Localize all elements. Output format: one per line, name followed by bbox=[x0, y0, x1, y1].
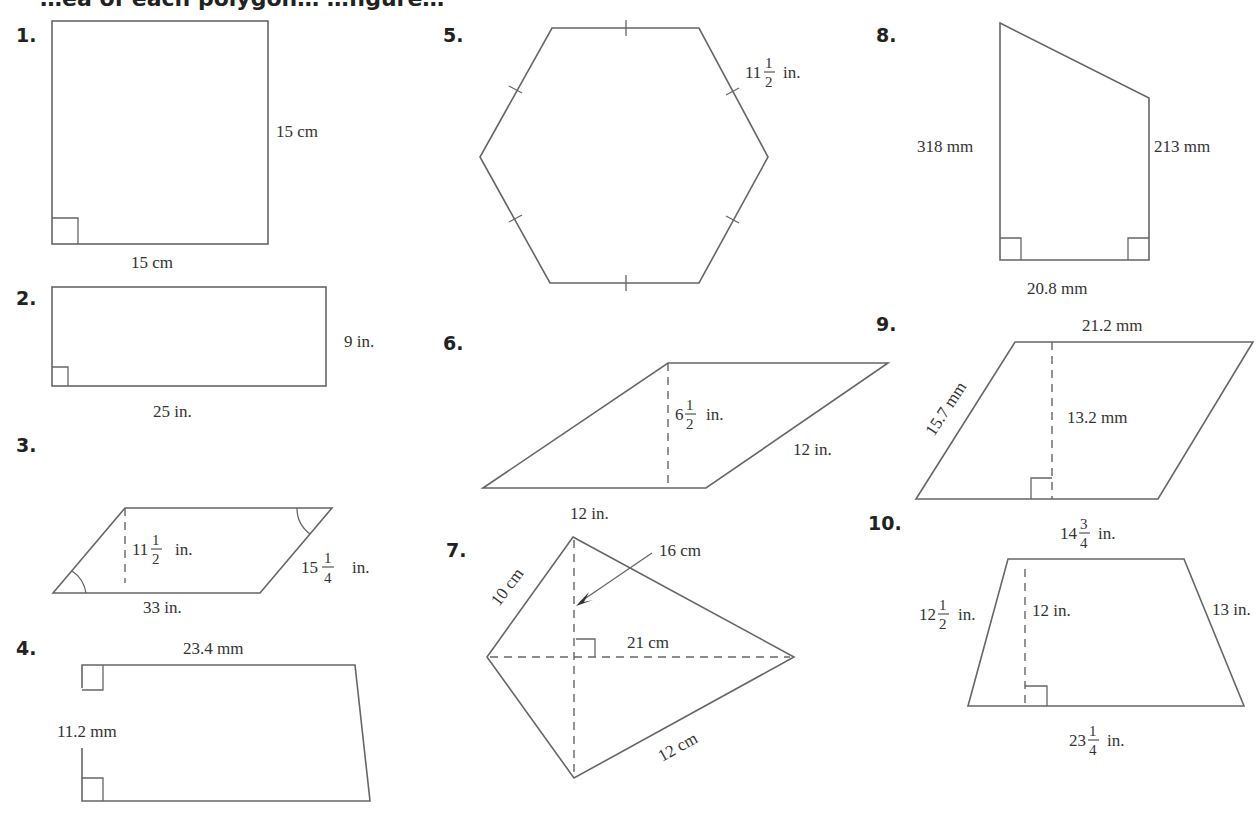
problem-number: 6. bbox=[443, 332, 463, 354]
lower-right-side-label: 12 cm bbox=[655, 729, 701, 766]
height-label-whole: 6 bbox=[675, 405, 684, 424]
height-label: 11.2 mm bbox=[57, 722, 117, 741]
side-label-denominator: 4 bbox=[324, 570, 332, 586]
height-label-whole: 11 bbox=[132, 540, 148, 559]
top-label-numerator: 3 bbox=[1080, 516, 1088, 532]
problem-1: 1. 15 cm 15 cm bbox=[16, 21, 318, 272]
base-label: 12 in. bbox=[570, 504, 609, 523]
problem-8: 8. 318 mm 213 mm 20.8 mm bbox=[876, 23, 1210, 298]
problem-10: 10. 14 3 4 in. 12 1 2 in. 12 in. 13 in. … bbox=[868, 512, 1251, 758]
problem-number: 7. bbox=[446, 539, 466, 561]
height-label-numerator: 1 bbox=[152, 532, 160, 548]
bottom-label-numerator: 1 bbox=[1089, 723, 1097, 739]
horizontal-diagonal-label: 21 cm bbox=[627, 633, 669, 652]
bottom-label-denominator: 4 bbox=[1089, 742, 1097, 758]
right-angle-marker bbox=[52, 218, 78, 244]
problem-9: 9. 21.2 mm 13.2 mm 15.7 mm bbox=[876, 313, 1253, 499]
top-label: 23.4 mm bbox=[183, 639, 243, 658]
right-angle-marker bbox=[82, 665, 103, 690]
height-label: 9 in. bbox=[344, 332, 374, 351]
problem-number: 3. bbox=[16, 434, 36, 456]
angle-arc bbox=[297, 508, 310, 534]
right-angle-marker bbox=[1128, 238, 1149, 260]
left-side-label-numerator: 1 bbox=[939, 597, 947, 613]
problem-number: 5. bbox=[443, 24, 463, 46]
top-label-denominator: 4 bbox=[1080, 535, 1088, 551]
problem-2: 2. 9 in. 25 in. bbox=[16, 287, 374, 421]
problem-6: 6. 6 1 2 in. 12 in. 12 in. bbox=[443, 332, 888, 523]
problem-5: 5. 11 1 2 in. bbox=[443, 20, 800, 291]
heading-partial: …ea of each polygon… …figure… bbox=[40, 0, 444, 11]
side-label: 15.7 mm bbox=[921, 378, 970, 439]
parallelogram-shape bbox=[53, 508, 332, 593]
problem-number: 10. bbox=[868, 512, 902, 534]
base-label: 25 in. bbox=[153, 402, 192, 421]
trapezoid-shape bbox=[82, 665, 370, 801]
worksheet: …ea of each polygon… …figure… 1. 15 cm 1… bbox=[0, 0, 1260, 814]
side-label: 15 cm bbox=[276, 122, 318, 141]
trapezoid-shape bbox=[968, 559, 1244, 706]
bottom-label-whole: 23 bbox=[1069, 731, 1086, 750]
left-side-label: 318 mm bbox=[917, 137, 973, 156]
problem-7: 7. 16 cm 21 cm 10 cm 12 cm bbox=[446, 537, 794, 778]
right-angle-marker bbox=[82, 778, 103, 801]
height-label: 12 in. bbox=[1032, 601, 1071, 620]
side-label-numerator: 1 bbox=[765, 55, 773, 71]
rectangle-shape bbox=[52, 287, 326, 386]
hexagon-shape bbox=[480, 28, 768, 283]
side-label: 12 in. bbox=[793, 440, 832, 459]
height-label-numerator: 1 bbox=[686, 397, 694, 413]
right-angle-marker bbox=[52, 367, 68, 386]
height-label-denominator: 2 bbox=[152, 551, 160, 567]
height-label-denominator: 2 bbox=[686, 416, 694, 432]
problem-number: 4. bbox=[16, 637, 36, 659]
height-label-unit: in. bbox=[706, 405, 723, 424]
vertical-diagonal-label: 16 cm bbox=[659, 541, 701, 560]
side-label-unit: in. bbox=[352, 558, 369, 577]
left-side-label-whole: 12 bbox=[919, 605, 936, 624]
upper-left-side-label: 10 cm bbox=[487, 564, 527, 609]
problem-number: 1. bbox=[16, 24, 36, 46]
side-label-whole: 15 bbox=[301, 558, 318, 577]
trapezoid-shape bbox=[1000, 23, 1149, 260]
top-label-whole: 14 bbox=[1060, 524, 1078, 543]
base-label: 15 cm bbox=[131, 253, 173, 272]
right-angle-marker bbox=[576, 639, 595, 657]
bottom-label-unit: in. bbox=[1107, 731, 1124, 750]
angle-arc bbox=[72, 571, 86, 593]
base-label: 20.8 mm bbox=[1027, 279, 1087, 298]
right-angle-marker bbox=[1000, 238, 1021, 260]
side-label-whole: 11 bbox=[745, 63, 761, 82]
problem-number: 2. bbox=[16, 287, 36, 309]
top-label-unit: in. bbox=[1098, 524, 1115, 543]
side-label-denominator: 2 bbox=[765, 74, 773, 90]
problem-4: 4. 23.4 mm 11.2 mm bbox=[16, 637, 370, 801]
right-angle-marker bbox=[1031, 478, 1052, 499]
problem-number: 8. bbox=[876, 24, 896, 46]
left-side-label-unit: in. bbox=[958, 605, 975, 624]
top-label: 21.2 mm bbox=[1082, 316, 1142, 335]
height-label: 13.2 mm bbox=[1067, 408, 1127, 427]
side-label-unit: in. bbox=[783, 63, 800, 82]
arrow-icon bbox=[576, 592, 593, 606]
right-angle-marker bbox=[1025, 686, 1047, 706]
right-side-label: 213 mm bbox=[1154, 137, 1210, 156]
base-label: 33 in. bbox=[143, 598, 182, 617]
side-label-numerator: 1 bbox=[324, 550, 332, 566]
square-shape bbox=[52, 21, 268, 244]
right-side-label: 13 in. bbox=[1212, 600, 1251, 619]
problem-3: 3. 11 1 2 in. 15 1 4 in. 33 in. bbox=[16, 434, 369, 617]
problem-number: 9. bbox=[876, 313, 896, 335]
left-side-label-denominator: 2 bbox=[939, 616, 947, 632]
height-label-unit: in. bbox=[175, 540, 192, 559]
